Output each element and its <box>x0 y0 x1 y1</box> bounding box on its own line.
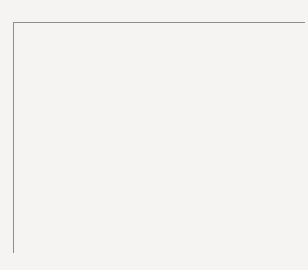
bottom-column-labels <box>13 255 282 270</box>
dot-matrix-grid <box>13 22 305 253</box>
top-column-labels <box>13 4 282 20</box>
